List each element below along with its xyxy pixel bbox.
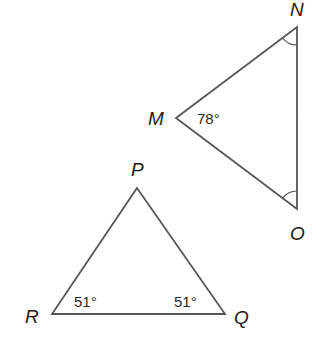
triangles-svg: N M O 78° P R Q 51° 51° bbox=[0, 0, 334, 343]
angle-value-q: 51° bbox=[174, 293, 197, 310]
angle-arc-n bbox=[283, 38, 297, 45]
vertex-label-r: R bbox=[25, 306, 39, 327]
triangle-pqr: P R Q 51° 51° bbox=[25, 159, 249, 328]
diagram-canvas: N M O 78° P R Q 51° 51° bbox=[0, 0, 334, 343]
angle-arc-o bbox=[283, 191, 297, 198]
triangle-mno-edges bbox=[176, 27, 297, 209]
vertex-label-m: M bbox=[148, 108, 164, 129]
vertex-label-q: Q bbox=[234, 307, 249, 328]
vertex-label-p: P bbox=[131, 159, 144, 180]
vertex-label-o: O bbox=[290, 223, 305, 244]
angle-value-r: 51° bbox=[74, 293, 97, 310]
vertex-label-n: N bbox=[290, 0, 304, 20]
angle-value-m: 78° bbox=[197, 110, 220, 127]
triangle-mno: N M O 78° bbox=[148, 0, 305, 244]
